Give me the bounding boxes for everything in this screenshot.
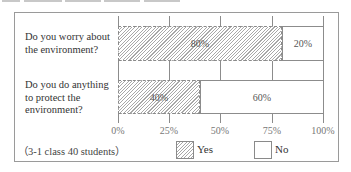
question-label-1: Do you worry about the environment? xyxy=(25,31,110,56)
question-label-2: Do you do anything to protect the enviro… xyxy=(25,79,109,117)
question-2-line-1: Do you do anything xyxy=(25,79,109,92)
bar-2-no-label: 60% xyxy=(253,92,271,103)
legend-no-label: No xyxy=(275,143,288,155)
x-tick-25: 25% xyxy=(160,125,178,136)
question-1-line-1: Do you worry about xyxy=(25,31,110,44)
bar-2-no-segment: 60% xyxy=(200,80,324,114)
question-1-line-2: the environment? xyxy=(25,44,110,57)
legend-no-swatch xyxy=(254,141,272,159)
x-tick-75: 75% xyxy=(263,125,281,136)
x-tick-100: 100% xyxy=(311,125,334,136)
legend-yes-swatch xyxy=(176,141,194,159)
bar-question-1: 80% 20% xyxy=(118,26,324,61)
legend-yes-label: Yes xyxy=(197,143,213,155)
chart-caption: （3-1 class 40 students） xyxy=(18,143,125,158)
bar-2-yes-segment: 40% xyxy=(118,80,200,114)
x-tick-50: 50% xyxy=(211,125,229,136)
x-tick-0: 0% xyxy=(111,125,124,136)
question-2-line-2: to protect the xyxy=(25,92,109,105)
bar-1-yes-label: 80% xyxy=(191,38,209,49)
bar-1-no-segment: 20% xyxy=(282,26,324,61)
bar-2-yes-label: 40% xyxy=(150,92,168,103)
bar-question-2: 40% 60% xyxy=(118,80,324,114)
bar-1-yes-segment: 80% xyxy=(118,26,282,61)
question-2-line-3: environment? xyxy=(25,104,109,117)
bar-1-no-label: 20% xyxy=(294,38,312,49)
